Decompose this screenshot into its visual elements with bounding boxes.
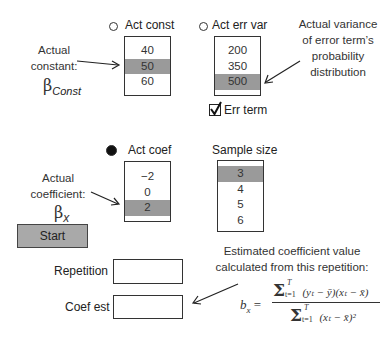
act-coef-label: Act coef xyxy=(128,143,171,157)
arrow-icon xyxy=(263,60,303,86)
sample-size-option[interactable]: 5 xyxy=(218,197,263,213)
sum-upper: T xyxy=(304,303,308,312)
formula-caption: Estimated coefficient value calculated f… xyxy=(204,243,380,275)
act-err-var-option[interactable]: 350 xyxy=(215,59,260,75)
numerator-expression: (yₜ − ȳ)(xₜ − x̄) xyxy=(302,286,368,298)
act-err-var-option[interactable]: 200 xyxy=(215,43,260,59)
act-const-label: Act const xyxy=(125,18,174,32)
act-const-option-selected[interactable]: 50 xyxy=(125,59,170,75)
lhs-subscript: x xyxy=(247,305,251,315)
err-term-label: Err term xyxy=(224,103,267,117)
caption-line: calculated from this repetition: xyxy=(204,259,380,275)
act-err-var-radio[interactable] xyxy=(199,22,208,31)
coef-est-field[interactable] xyxy=(113,295,183,319)
annotation-line: probability xyxy=(292,48,384,64)
beta-glyph: β xyxy=(43,76,52,95)
sigma-icon: Σ xyxy=(290,305,302,325)
formula-lhs: bx = xyxy=(240,297,261,315)
act-const-option[interactable]: 40 xyxy=(125,43,170,59)
act-const-option[interactable]: 60 xyxy=(125,74,170,90)
sample-size-listbox[interactable]: 3 4 5 6 xyxy=(217,160,264,232)
act-err-var-label: Act err var xyxy=(212,18,267,32)
sum-upper: T xyxy=(287,278,291,287)
arrow-icon xyxy=(76,58,122,70)
repetition-label: Repetition xyxy=(54,264,108,278)
fraction-bar xyxy=(272,302,380,303)
annotation-line: Actual xyxy=(20,42,88,58)
annotation-line: Actual variance xyxy=(292,16,384,32)
sum-lower: t=1 xyxy=(302,315,313,324)
caption-line: Estimated coefficient value xyxy=(204,243,380,259)
arrow-icon xyxy=(90,190,122,208)
act-coef-option[interactable]: 0 xyxy=(125,185,170,201)
sample-size-option-selected[interactable]: 3 xyxy=(218,166,263,182)
formula-denominator: Σ T t=1 (xₜ − x̄)² xyxy=(290,305,356,325)
start-button[interactable]: Start xyxy=(17,224,88,248)
annotation-line: distribution xyxy=(292,64,384,80)
act-err-var-listbox[interactable]: 200 350 500 xyxy=(214,36,261,96)
annotation-line: Actual xyxy=(24,170,92,186)
arrow-icon xyxy=(190,283,240,305)
act-coef-annotation: Actual coefficient: xyxy=(24,170,92,202)
repetition-field[interactable] xyxy=(113,259,183,284)
denominator-expression: (xₜ − x̄)² xyxy=(319,311,355,323)
act-coef-option[interactable]: −2 xyxy=(125,169,170,185)
sample-size-option[interactable]: 4 xyxy=(218,182,263,198)
beta-const-symbol: βConst xyxy=(43,76,81,97)
annotation-line: of error term’s xyxy=(292,32,384,48)
act-coef-listbox[interactable]: −2 0 2 xyxy=(124,161,171,222)
coef-est-label: Coef est xyxy=(65,300,110,314)
beta-glyph: β xyxy=(54,203,63,222)
formula: bx = Σ T t=1 (yₜ − ȳ)(xₜ − x̄) Σ T t=1 (… xyxy=(240,280,385,330)
annotation-line: coefficient: xyxy=(24,186,92,202)
act-coef-option-selected[interactable]: 2 xyxy=(125,200,170,216)
act-const-radio[interactable] xyxy=(109,22,118,31)
formula-numerator: Σ T t=1 (yₜ − ȳ)(xₜ − x̄) xyxy=(273,280,368,300)
beta-x-symbol: βx xyxy=(54,203,69,225)
sigma-icon: Σ xyxy=(273,280,285,300)
equals-sign: = xyxy=(254,297,261,312)
sample-size-label: Sample size xyxy=(212,143,277,157)
beta-subscript: Const xyxy=(52,85,81,97)
act-coef-radio[interactable] xyxy=(106,145,117,156)
act-err-var-annotation: Actual variance of error term’s probabil… xyxy=(292,16,384,80)
act-err-var-option-selected[interactable]: 500 xyxy=(215,74,260,90)
act-const-listbox[interactable]: 40 50 60 xyxy=(124,36,171,96)
sum-lower: t=1 xyxy=(285,290,296,299)
sample-size-option[interactable]: 6 xyxy=(218,213,263,229)
checkmark-icon xyxy=(209,101,223,116)
